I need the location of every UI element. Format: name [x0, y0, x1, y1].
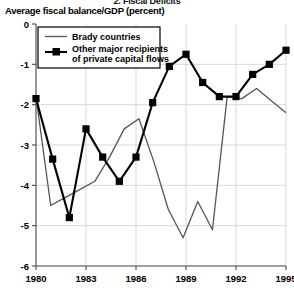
svg-text:-2: -2	[21, 99, 29, 110]
svg-text:Brady countries: Brady countries	[72, 32, 141, 42]
x-axis-tick-labels: 198019831986198919921995	[25, 266, 294, 284]
axis-title: Average fiscal balance/GDP (percent)	[5, 5, 164, 16]
chart-figure: 2. Fiscal Deficits Average fiscal balanc…	[0, 0, 294, 298]
svg-text:1995: 1995	[275, 273, 294, 284]
svg-text:1989: 1989	[175, 273, 196, 284]
svg-text:1980: 1980	[25, 273, 46, 284]
svg-text:-3: -3	[21, 140, 29, 151]
chart-plot-area: 0-1-2-3-4-5-6 198019831986198919921995 B…	[0, 0, 294, 298]
series-brady-countries	[36, 89, 286, 238]
figure-title-clipped: 2. Fiscal Deficits	[0, 0, 294, 4]
svg-text:-5: -5	[21, 220, 30, 231]
svg-text:0: 0	[24, 19, 29, 30]
svg-text:1983: 1983	[75, 273, 96, 284]
chart-legend: Brady countriesOther major recipientsof …	[38, 27, 169, 68]
svg-text:-6: -6	[21, 261, 29, 272]
svg-text:-1: -1	[21, 59, 30, 70]
svg-text:1986: 1986	[125, 273, 146, 284]
svg-text:1992: 1992	[225, 273, 246, 284]
svg-text:of private capital flows: of private capital flows	[72, 54, 169, 64]
svg-text:-4: -4	[21, 180, 30, 191]
svg-text:Other major recipients: Other major recipients	[72, 44, 168, 54]
y-axis-tick-labels: 0-1-2-3-4-5-6	[21, 19, 36, 272]
